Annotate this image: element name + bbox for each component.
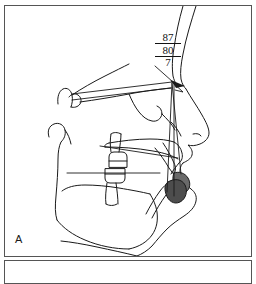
cephalometric-tracing xyxy=(5,6,251,256)
frontal-bone-outline xyxy=(181,6,196,89)
coronoid-process-outline xyxy=(65,130,71,144)
zygomatic-shelf-outline xyxy=(162,114,175,130)
nose-profile-outline xyxy=(183,89,209,163)
pterygomaxillary-fissure-outline xyxy=(157,106,162,114)
figure-panel-b xyxy=(4,260,252,284)
mandibular-molar-crown-outline xyxy=(105,169,125,183)
nostril-detail xyxy=(193,134,201,136)
hard-palate-upper-outline xyxy=(109,139,174,143)
measurement-value-bottom: 7 xyxy=(155,57,181,68)
measurement-value-top: 87 xyxy=(155,32,181,44)
condyle-and-posterior-ramus-outline xyxy=(48,123,65,220)
measurement-values: 87 80 7 xyxy=(155,32,181,69)
sella-nasion-line-lower xyxy=(72,88,171,100)
figure-panel-a: 87 80 7 A xyxy=(4,5,252,257)
sella-nasion-line xyxy=(72,82,172,94)
panel-label-a: A xyxy=(15,234,23,245)
mandibular-incisor-crown-shaded xyxy=(165,180,186,203)
maxillary-molar-crown-outline xyxy=(109,152,127,167)
mandible-lower-border-outline xyxy=(57,220,129,249)
orbital-floor-outline xyxy=(129,94,162,121)
nasion-b-point-line xyxy=(167,83,172,192)
sella-turcica-outline xyxy=(58,88,73,107)
sella-floor-outline xyxy=(69,94,81,107)
